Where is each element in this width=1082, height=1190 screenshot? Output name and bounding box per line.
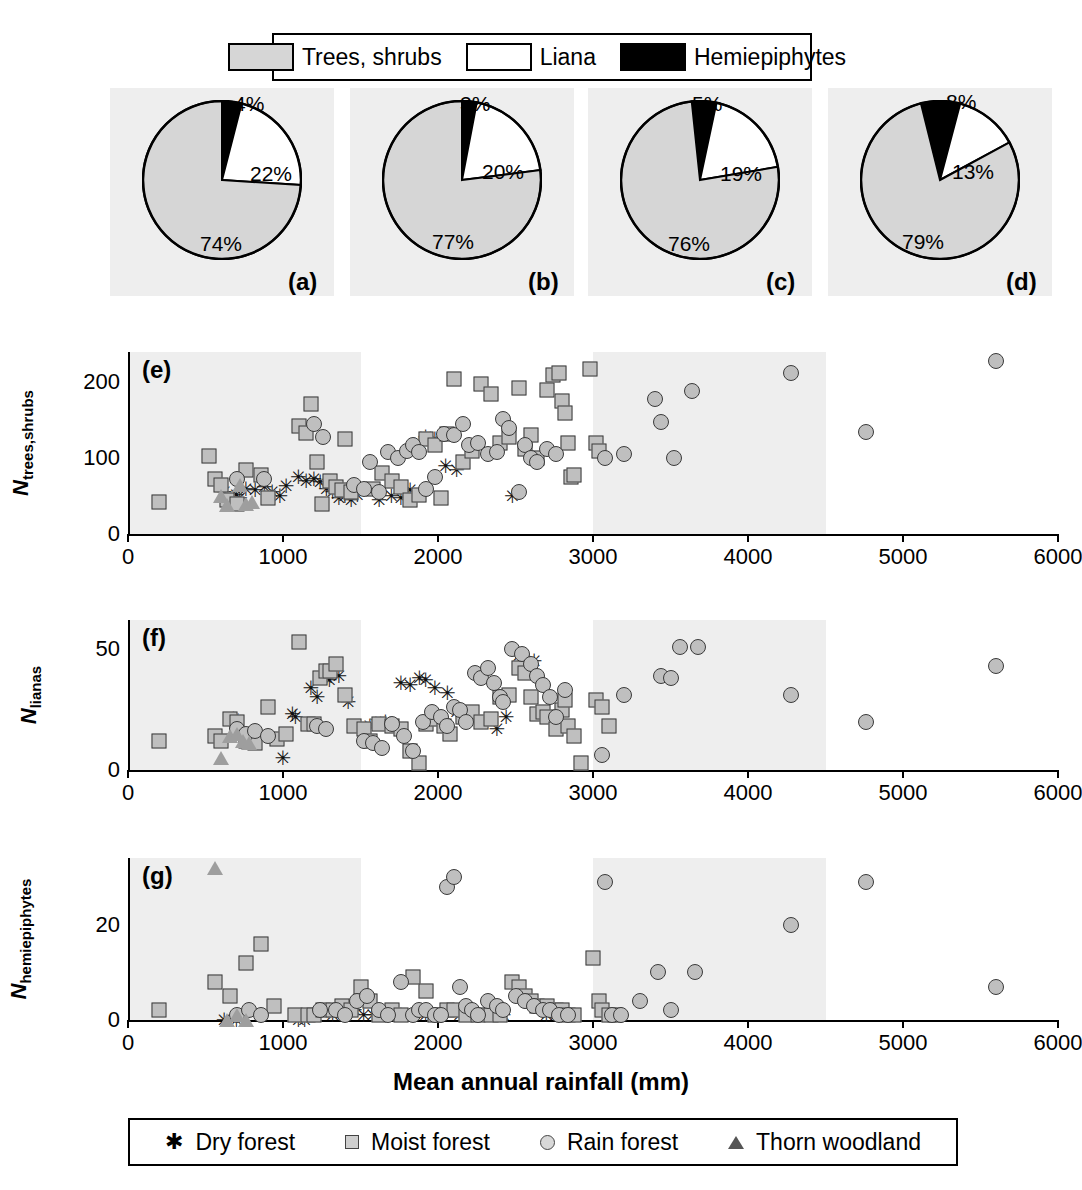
y-tick-label: 0 xyxy=(66,1007,120,1033)
data-point-circle xyxy=(783,687,799,703)
x-tick-label: 4000 xyxy=(724,544,773,570)
data-point-circle xyxy=(858,424,874,440)
data-point-circle xyxy=(542,689,558,705)
data-point-circle xyxy=(427,469,443,485)
y-axis-line xyxy=(128,620,130,770)
x-tick xyxy=(127,770,129,778)
data-point-triangle xyxy=(244,495,260,509)
legend-item-dry-forest: ✱ Dry forest xyxy=(165,1129,295,1156)
data-point-circle xyxy=(318,721,334,737)
data-point-circle xyxy=(687,964,703,980)
data-point-square xyxy=(260,700,275,715)
data-point-circle xyxy=(548,709,564,725)
data-point-circle xyxy=(594,747,610,763)
data-point-square xyxy=(558,405,573,420)
data-point-circle xyxy=(359,988,375,1004)
data-point-circle xyxy=(511,484,527,500)
x-axis-title: Mean annual rainfall (mm) xyxy=(0,1068,1082,1096)
x-tick xyxy=(282,770,284,778)
data-point-circle xyxy=(560,1007,576,1023)
data-point-square xyxy=(279,726,294,741)
data-point-circle xyxy=(501,420,517,436)
legend-label-dry-forest: Dry forest xyxy=(195,1129,295,1156)
data-point-circle xyxy=(396,728,412,744)
figure-root: Trees, shrubs Liana Hemiepiphytes 4%22%7… xyxy=(0,0,1082,1190)
y-tick-label: 200 xyxy=(66,369,120,395)
panel-label: (d) xyxy=(1006,268,1037,296)
data-point-triangle xyxy=(213,751,229,765)
data-point-triangle xyxy=(207,861,223,875)
y-axis-line xyxy=(128,858,130,1020)
y-tick-label: 0 xyxy=(66,521,120,547)
x-tick-label: 2000 xyxy=(414,1030,463,1056)
data-point-circle xyxy=(362,454,378,470)
data-point-circle xyxy=(647,391,663,407)
pie-label-hemiepiphytes: 4% xyxy=(234,92,264,116)
data-point-circle xyxy=(446,869,462,885)
data-point-square xyxy=(483,386,498,401)
data-point-square xyxy=(152,1003,167,1018)
pie-label-trees-shrubs: 77% xyxy=(432,230,474,254)
triangle-icon xyxy=(728,1136,744,1149)
x-tick xyxy=(592,1020,594,1028)
panel-label: (f) xyxy=(142,624,166,652)
y-tick-label: 0 xyxy=(66,757,120,783)
data-point-circle xyxy=(858,714,874,730)
data-point-square xyxy=(328,656,343,671)
data-point-square xyxy=(601,719,616,734)
asterisk-icon: ✱ xyxy=(165,1136,183,1148)
square-icon xyxy=(345,1135,359,1149)
data-point-square xyxy=(418,984,433,999)
white-swatch-icon xyxy=(466,43,532,71)
black-swatch-icon xyxy=(620,43,686,71)
data-point-asterisk: ✳ xyxy=(309,692,326,702)
data-point-circle xyxy=(783,365,799,381)
x-tick xyxy=(127,534,129,542)
data-point-circle xyxy=(666,450,682,466)
data-point-circle xyxy=(858,874,874,890)
x-tick-label: 6000 xyxy=(1034,780,1082,806)
x-tick-label: 4000 xyxy=(724,780,773,806)
x-tick-label: 0 xyxy=(122,544,134,570)
data-point-circle xyxy=(256,471,272,487)
pie-chart-d: 8%13%79%(d) xyxy=(818,88,1062,313)
data-point-square xyxy=(595,700,610,715)
data-point-circle xyxy=(663,670,679,686)
x-tick xyxy=(592,534,594,542)
y-tick-label: 20 xyxy=(66,912,120,938)
x-tick xyxy=(902,1020,904,1028)
panel-label: (b) xyxy=(528,268,559,296)
y-axis-title: Nlianas xyxy=(16,666,44,724)
x-tick-label: 3000 xyxy=(569,544,618,570)
data-point-square xyxy=(524,690,539,705)
data-point-square xyxy=(446,371,461,386)
data-point-circle xyxy=(613,1007,629,1023)
data-point-circle xyxy=(380,1007,396,1023)
data-point-circle xyxy=(253,1007,269,1023)
x-tick-label: 4000 xyxy=(724,1030,773,1056)
legend-item-rain-forest: Rain forest xyxy=(540,1129,678,1156)
data-point-square xyxy=(511,381,526,396)
x-tick xyxy=(902,534,904,542)
legend-item-hemiepiphytes: Hemiepiphytes xyxy=(620,43,856,71)
x-tick xyxy=(282,534,284,542)
data-point-square xyxy=(338,432,353,447)
data-point-square xyxy=(310,454,325,469)
data-point-circle xyxy=(988,353,1004,369)
x-tick xyxy=(1057,770,1059,778)
data-point-circle xyxy=(455,416,471,432)
legend-label-rain-forest: Rain forest xyxy=(567,1129,678,1156)
x-tick-label: 5000 xyxy=(879,544,928,570)
x-tick-label: 5000 xyxy=(879,1030,928,1056)
pie-label-trees-shrubs: 74% xyxy=(200,232,242,256)
pie-chart-row: 4%22%74%(a)3%20%77%(b)5%19%76%(c)8%13%79… xyxy=(0,88,1082,313)
data-point-circle xyxy=(458,714,474,730)
data-point-circle xyxy=(597,874,613,890)
panel-label: (g) xyxy=(142,862,173,890)
data-point-square xyxy=(582,361,597,376)
data-point-square xyxy=(260,490,275,505)
data-point-square xyxy=(152,495,167,510)
y-tick-label: 100 xyxy=(66,445,120,471)
legend-item-moist-forest: Moist forest xyxy=(345,1129,490,1156)
circle-icon xyxy=(540,1135,555,1150)
